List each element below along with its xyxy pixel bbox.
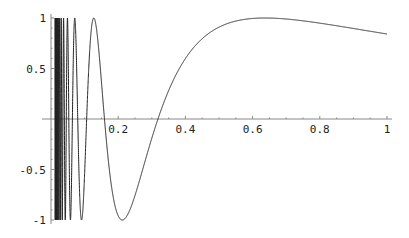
axes — [42, 14, 392, 224]
y-tick-label: 0.5 — [26, 63, 46, 76]
x-tick-label: 1 — [384, 123, 391, 136]
x-tick-label: 0.6 — [243, 123, 263, 136]
y-tick-label: -0.5 — [20, 164, 47, 177]
y-tick-label: -1 — [33, 214, 46, 227]
y-tick-label: 1 — [39, 12, 46, 25]
x-tick-label: 0.4 — [175, 123, 195, 136]
x-tick-label: 0.2 — [108, 123, 128, 136]
line-chart: 0.20.40.60.8110.5-0.5-1 — [0, 0, 409, 238]
x-tick-label: 0.8 — [310, 123, 330, 136]
